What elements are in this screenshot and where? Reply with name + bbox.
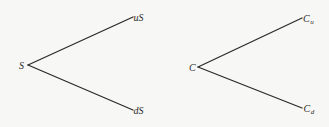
option-up-branch [198,18,302,67]
binomial-tree-diagram: S uS dS C Cu Cd [0,0,329,127]
stock-down-label: dS [134,105,144,116]
stock-down-branch [28,65,133,110]
option-price-tree: C Cu Cd [189,13,315,116]
option-root-label: C [189,62,196,73]
option-down-subscript: d [311,108,315,116]
option-up-label: Cu [303,13,314,26]
option-down-main: C [304,103,311,114]
stock-price-tree: S uS dS [19,12,144,116]
option-down-label: Cd [304,103,315,116]
option-up-main: C [303,13,310,24]
stock-up-branch [28,17,133,65]
stock-up-label: uS [134,12,144,23]
option-down-branch [198,67,302,108]
diagram-canvas: S uS dS C Cu Cd [0,0,329,127]
stock-root-label: S [19,60,24,71]
option-up-subscript: u [310,18,314,26]
